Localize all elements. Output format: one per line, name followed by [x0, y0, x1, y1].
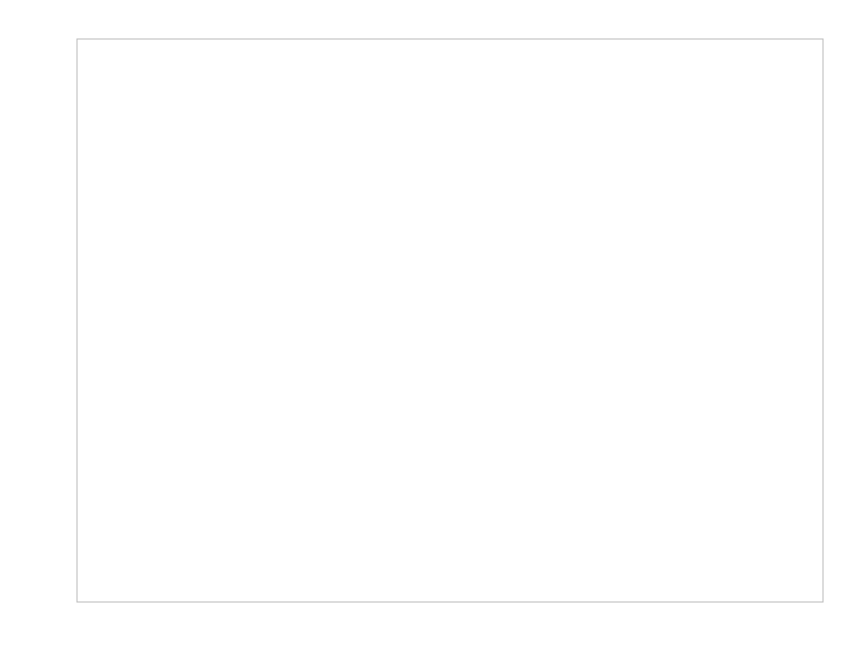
panel-background	[77, 39, 823, 602]
scatter-plot-figure	[0, 0, 864, 656]
plot-canvas	[0, 0, 864, 656]
